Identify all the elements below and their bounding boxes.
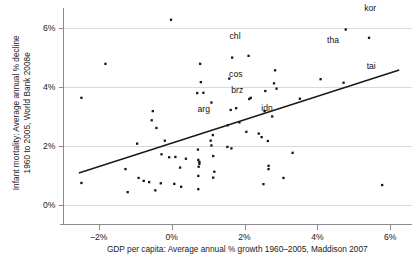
data-point	[342, 82, 344, 84]
data-points	[80, 19, 383, 194]
annotation-chl: chl	[230, 31, 241, 41]
data-point	[185, 158, 187, 160]
y-axis-title-line-2: 1960 to 2005, World Bank 2008e	[22, 52, 32, 174]
data-point	[164, 140, 166, 142]
data-point	[264, 90, 266, 92]
data-point	[282, 177, 284, 179]
plot-canvas: korchlthataicosbrzargidn 0%2%4%6%–2%0%2%…	[0, 0, 416, 258]
y-tick-label: 6%	[43, 23, 56, 33]
tick-labels: 0%2%4%6%–2%0%2%4%6%	[43, 23, 397, 242]
y-tick-label: 4%	[43, 82, 56, 92]
data-point	[174, 156, 176, 158]
scatter-chart: korchlthataicosbrzargidn 0%2%4%6%–2%0%2%…	[0, 0, 416, 258]
data-point	[226, 146, 228, 148]
data-point	[345, 28, 347, 30]
data-point	[258, 132, 260, 134]
data-point	[210, 101, 212, 103]
data-point	[210, 144, 212, 146]
x-tick-label: –2%	[90, 232, 108, 242]
axis-tickmarks	[59, 29, 391, 230]
annotation-tai: tai	[367, 61, 376, 71]
data-point	[200, 81, 202, 83]
data-point	[267, 168, 269, 170]
x-axis-title: GDP per capita: Average annual % growth …	[107, 244, 368, 254]
data-point	[80, 97, 82, 99]
data-point	[196, 92, 198, 94]
annotation-arg: arg	[198, 104, 211, 114]
axis-titles: GDP per capita: Average annual % growth …	[11, 35, 368, 254]
y-tick-label: 0%	[43, 200, 56, 210]
y-tick-label: 2%	[43, 141, 56, 151]
data-point	[274, 69, 276, 71]
data-point	[273, 82, 275, 84]
data-point	[137, 177, 139, 179]
data-point	[381, 184, 383, 186]
data-point	[197, 175, 199, 177]
data-point	[230, 147, 232, 149]
data-point	[235, 107, 237, 109]
data-point	[80, 182, 82, 184]
annotation-kor: kor	[364, 3, 376, 13]
data-point	[198, 163, 200, 165]
data-point	[299, 98, 301, 100]
annotation-cos: cos	[229, 69, 242, 79]
data-point	[262, 183, 264, 185]
data-point	[368, 37, 370, 39]
data-point	[212, 177, 214, 179]
data-point	[271, 115, 273, 117]
data-point	[260, 136, 262, 138]
x-tick-label: 2%	[238, 232, 251, 242]
data-point	[170, 19, 172, 21]
data-point	[179, 166, 181, 168]
data-point	[151, 119, 153, 121]
x-tick-label: 6%	[384, 232, 397, 242]
data-point	[155, 127, 157, 129]
data-point	[198, 166, 200, 168]
data-point	[202, 92, 204, 94]
data-point	[213, 171, 215, 173]
x-tick-label: 4%	[311, 232, 324, 242]
data-point	[291, 152, 293, 154]
data-point	[319, 78, 321, 80]
data-point	[197, 159, 199, 161]
data-point	[104, 63, 106, 65]
y-axis-title-line-1: Infant mortality: Average annual % decli…	[11, 35, 21, 190]
data-point	[124, 168, 126, 170]
data-point	[267, 140, 269, 142]
data-point	[152, 110, 154, 112]
data-point	[199, 63, 201, 65]
data-point	[247, 55, 249, 57]
data-point	[248, 98, 250, 100]
gridlines	[63, 29, 413, 206]
annotation-idn: idn	[261, 103, 273, 113]
data-point	[197, 148, 199, 150]
data-point	[173, 183, 175, 185]
annotation-tha: tha	[327, 35, 339, 45]
data-point	[180, 186, 182, 188]
data-point	[136, 143, 138, 145]
data-point	[230, 109, 232, 111]
data-point	[154, 189, 156, 191]
data-point	[143, 180, 145, 182]
data-point	[127, 191, 129, 193]
data-point	[197, 188, 199, 190]
point-annotations: korchlthataicosbrzargidn	[198, 3, 377, 114]
data-point	[168, 156, 170, 158]
data-point	[160, 182, 162, 184]
x-tick-label: 0%	[166, 232, 179, 242]
data-point	[231, 56, 233, 58]
data-point	[245, 131, 247, 133]
data-point	[267, 165, 269, 167]
data-point	[212, 134, 214, 136]
data-point	[275, 88, 277, 90]
data-point	[210, 140, 212, 142]
annotation-brz: brz	[231, 85, 243, 95]
data-point	[212, 155, 214, 157]
data-point	[148, 181, 150, 183]
data-point	[160, 153, 162, 155]
